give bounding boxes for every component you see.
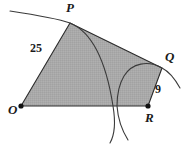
edge-length-label-OP: 25 bbox=[30, 42, 42, 54]
figure-canvas bbox=[0, 0, 188, 145]
vertex-label-P: P bbox=[66, 1, 74, 14]
edge-length-label-RQ: 9 bbox=[155, 83, 161, 95]
vertex-label-R: R bbox=[145, 111, 154, 124]
vertex-point-O bbox=[18, 103, 23, 108]
geometry-figure: O P Q R 25 9 bbox=[0, 0, 188, 145]
vertex-label-Q: Q bbox=[165, 50, 174, 63]
vertex-point-R bbox=[145, 103, 150, 108]
vertex-label-O: O bbox=[8, 103, 17, 116]
